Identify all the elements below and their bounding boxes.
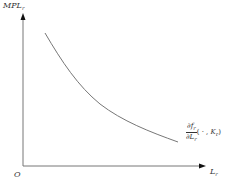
y-axis-arrow-icon [21, 13, 26, 20]
fraction-denominator: ∂Lr [186, 133, 197, 142]
y-axis-label: MPLr [3, 2, 24, 11]
curve-label: ∂fr ∂Lr ( · , Kr) [186, 123, 221, 142]
x-axis-label: Lr [210, 168, 218, 177]
mpl-curve [45, 33, 178, 142]
function-arguments: ( · , Kr) [197, 129, 221, 137]
partial-derivative-fraction: ∂fr ∂Lr [186, 123, 197, 142]
fraction-numerator: ∂fr [186, 123, 197, 133]
x-axis-arrow-icon [199, 164, 206, 169]
origin-label: O [14, 171, 21, 179]
diagram-canvas [0, 0, 234, 191]
mpl-diagram: MPLr O Lr ∂fr ∂Lr ( · , Kr) [0, 0, 234, 191]
